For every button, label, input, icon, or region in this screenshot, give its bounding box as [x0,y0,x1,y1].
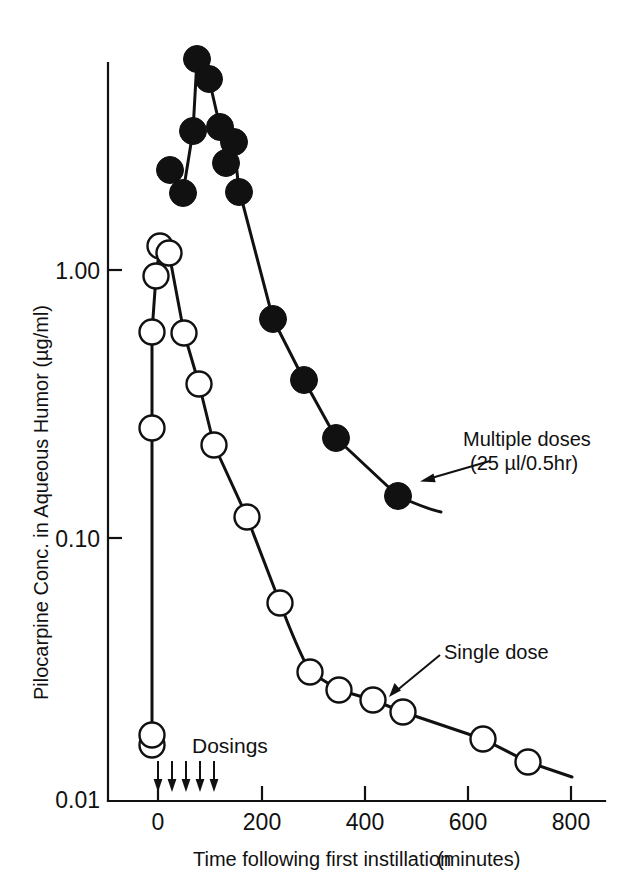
y-tick-label-2: 0.10 [55,526,100,552]
data-point-open [202,433,227,458]
data-point-open [172,321,197,346]
data-point-filled [180,118,207,145]
data-point-open [298,660,323,685]
y-tick-label-1: 1.00 [55,258,100,284]
x-tick-label-600: 600 [449,809,487,835]
y-axis-title: Pilocarpine Conc. in Aqueous Humor (µg/m… [30,305,52,700]
data-point-filled [170,180,197,207]
annotation-multiple-doses: Multiple doses (25 µl/0.5hr) [420,428,591,482]
data-point-filled [221,129,248,156]
data-point-open [361,688,386,713]
data-point-open [391,700,416,725]
annotation-arrow-single-icon [389,655,440,697]
series-multiple-doses [157,46,442,513]
x-axis-title: Time following first instillation [193,848,451,870]
x-tick-label-800: 800 [552,809,590,835]
dosing-arrows-group [154,761,219,792]
x-tick-label-200: 200 [243,809,281,835]
x-tick-marks [158,786,571,801]
data-point-filled [157,157,184,184]
figure-container: 1.00 0.10 0.01 0 200 400 600 800 Time fo… [0,0,643,880]
single-dose-markers [140,234,541,775]
series-single-dose [140,234,573,778]
annotation-single-dose: Single dose [389,641,549,697]
annotation-multiple-line1: Multiple doses [463,428,591,450]
x-tick-label-0: 0 [152,809,165,835]
y-tick-labels: 1.00 0.10 0.01 [55,258,100,813]
data-point-open [268,591,293,616]
dosings-label: Dosings [192,734,268,757]
data-point-open [516,750,541,775]
dosing-arrow-icon [168,761,177,792]
x-tick-labels: 0 200 400 600 800 [152,809,591,835]
dosing-arrow-icon [154,761,163,792]
data-point-open [144,264,169,289]
x-tick-label-400: 400 [346,809,384,835]
x-axis-title-units: (minutes) [437,848,520,870]
data-point-open [157,241,182,266]
annotation-single-label: Single dose [444,641,549,663]
y-tick-marks [108,270,122,538]
dosing-arrow-icon [196,761,205,792]
data-point-filled [226,179,253,206]
data-point-open [187,372,212,397]
data-point-filled [291,367,318,394]
dosing-arrow-icon [182,761,191,792]
data-point-filled [196,66,223,93]
data-point-open [327,678,352,703]
annotation-multiple-line2: (25 µl/0.5hr) [470,452,578,474]
data-point-open [140,320,165,345]
chart-plot: 1.00 0.10 0.01 0 200 400 600 800 Time fo… [0,0,643,880]
data-point-filled [385,483,412,510]
data-point-open [140,723,165,748]
y-tick-label-3: 0.01 [55,787,100,813]
dosing-arrow-icon [210,761,219,792]
data-point-filled [260,306,287,333]
data-point-open [471,727,496,752]
data-point-filled [323,425,350,452]
data-point-open [235,505,260,530]
data-point-open [140,416,165,441]
